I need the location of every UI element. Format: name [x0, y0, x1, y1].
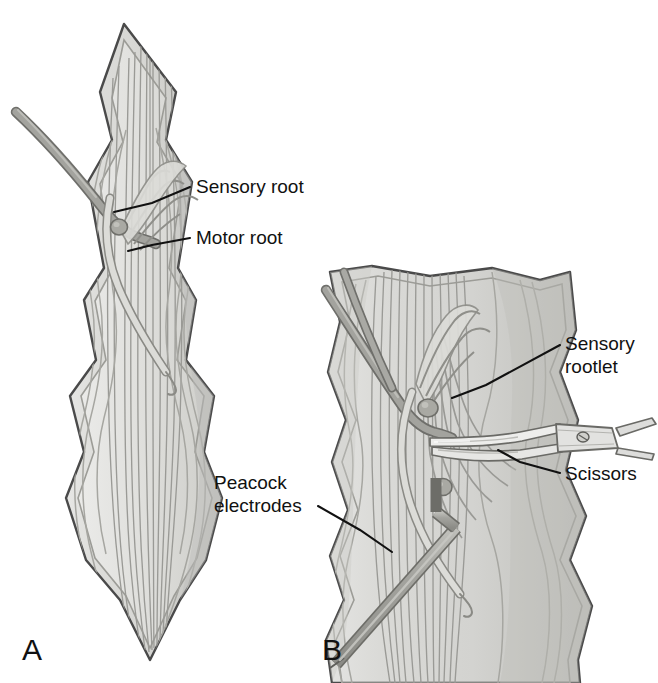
label-sensory-root: Sensory root	[196, 176, 304, 197]
panel-letter-a: A	[22, 633, 42, 666]
label-peacock-electrodes-line1: Peacock	[214, 472, 287, 493]
label-sensory-rootlet-line1: Sensory	[565, 333, 635, 354]
anatomical-figure: Sensory root Motor root	[0, 0, 658, 683]
panel-a-ganglion-highlight	[114, 222, 120, 227]
label-sensory-rootlet-line2: rootlet	[565, 356, 619, 377]
panel-a-dorsal-root-ganglion	[111, 219, 128, 235]
panel-b-ganglion-highlight	[422, 402, 429, 408]
label-scissors: Scissors	[565, 463, 637, 484]
figure-root: Sensory root Motor root	[0, 0, 658, 683]
panel-letter-b: B	[322, 633, 342, 666]
label-motor-root: Motor root	[196, 227, 283, 248]
panel-b-dorsal-root-ganglion	[418, 399, 438, 417]
label-peacock-electrodes-line2: electrodes	[214, 495, 302, 516]
